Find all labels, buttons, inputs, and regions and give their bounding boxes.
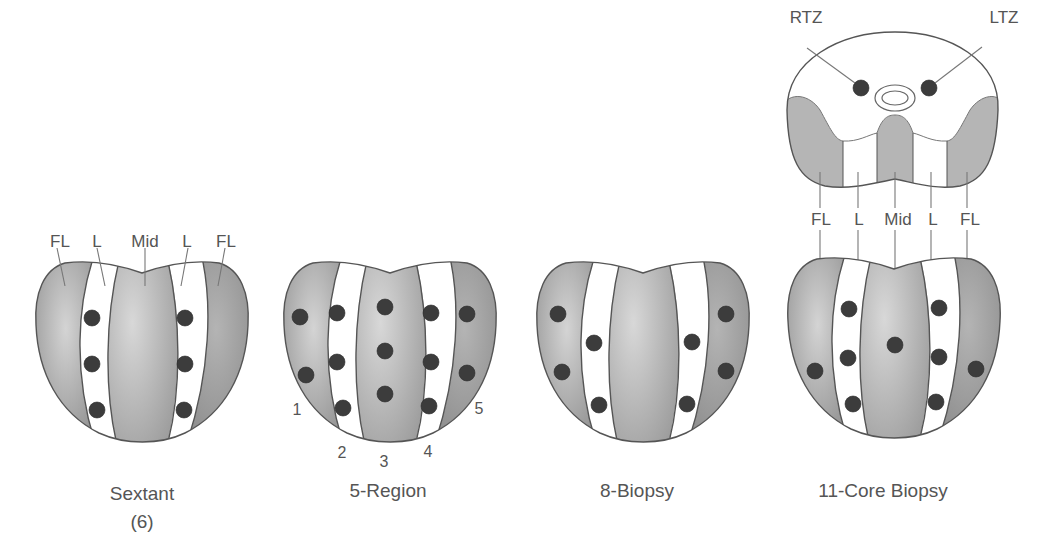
- zone-label-mid: Mid: [884, 210, 911, 229]
- eleven-core-diagram: [782, 249, 1012, 449]
- transverse-section: RTZ LTZ: [780, 8, 1018, 200]
- caption-sextant: Sextant: [110, 483, 175, 504]
- five-region-diagram: [278, 253, 508, 453]
- caption-five-region: 5-Region: [349, 480, 426, 501]
- region-number-1: 1: [293, 401, 302, 418]
- label-rtz: RTZ: [790, 8, 823, 27]
- eight-biopsy-diagram: [531, 253, 761, 453]
- zone-label-fl-right: FL: [216, 232, 236, 251]
- sextant-zone-labels: FL L Mid L FL: [50, 232, 236, 251]
- zone-label-mid: Mid: [131, 232, 158, 251]
- zone-label-l-left: L: [92, 232, 101, 251]
- eleven-core-zone-labels: FL L Mid L FL: [811, 210, 980, 229]
- caption-sextant-count: (6): [130, 511, 153, 532]
- zone-label-fl-left: FL: [811, 210, 831, 229]
- sextant-diagram: [30, 248, 260, 453]
- region-number-3: 3: [380, 453, 389, 470]
- core-ltz: [921, 80, 937, 96]
- zone-label-fl-right: FL: [960, 210, 980, 229]
- caption-eight-biopsy: 8-Biopsy: [600, 480, 674, 501]
- biopsy-schemes-diagram: FL L Mid L FL Sextant (6) 1 2 3 4 5: [0, 0, 1053, 556]
- region-number-2: 2: [338, 444, 347, 461]
- core-rtz: [853, 80, 869, 96]
- zone-label-l-right: L: [928, 210, 937, 229]
- region-number-5: 5: [475, 400, 484, 417]
- label-ltz: LTZ: [990, 8, 1019, 27]
- zone-label-l-right: L: [182, 232, 191, 251]
- caption-eleven-core: 11-Core Biopsy: [818, 480, 948, 501]
- zone-label-l-left: L: [854, 210, 863, 229]
- prostate-gland-icon: [531, 253, 761, 453]
- zone-label-fl-left: FL: [50, 232, 70, 251]
- region-number-4: 4: [424, 443, 433, 460]
